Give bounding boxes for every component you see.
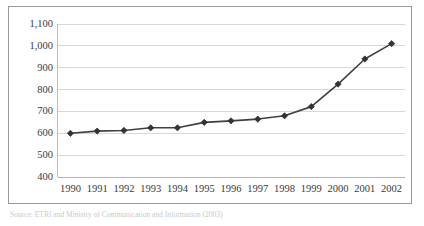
- x-tick-label: 1992: [113, 183, 134, 195]
- data-point-marker: [148, 125, 154, 131]
- y-tick-label: 1,100: [13, 19, 53, 29]
- data-point-marker: [228, 118, 234, 124]
- line-series-svg: [57, 24, 405, 177]
- y-tick-label: 800: [13, 85, 53, 95]
- data-point-marker: [67, 130, 73, 136]
- chart-source-caption: Source: ETRI and Ministry of Communicati…: [10, 210, 414, 219]
- x-tick-label: 1990: [60, 183, 81, 195]
- chart-frame: 4005006007008009001,0001,100 19901991199…: [8, 6, 412, 204]
- data-point-marker: [174, 125, 180, 131]
- x-tick-label: 1997: [247, 183, 268, 195]
- x-axis: 1990199119921993199419951996199719981999…: [57, 183, 405, 199]
- x-tick-label: 1999: [301, 183, 322, 195]
- x-tick-label: 1998: [274, 183, 295, 195]
- data-point-marker: [389, 41, 395, 47]
- data-series-layer: [57, 24, 405, 177]
- y-tick-label: 1,000: [13, 41, 53, 51]
- y-axis: 4005006007008009001,0001,100: [9, 24, 53, 177]
- x-tick-label: 1994: [167, 183, 188, 195]
- data-point-marker: [94, 128, 100, 134]
- data-point-marker: [281, 113, 287, 119]
- y-tick-label: 500: [13, 150, 53, 160]
- data-point-marker: [121, 127, 127, 133]
- x-tick-label: 2001: [354, 183, 375, 195]
- y-tick-label: 700: [13, 106, 53, 116]
- x-tick-label: 1991: [87, 183, 108, 195]
- data-point-marker: [255, 116, 261, 122]
- y-tick-label: 400: [13, 172, 53, 182]
- y-tick-label: 900: [13, 63, 53, 73]
- figure-container: 4005006007008009001,0001,100 19901991199…: [0, 0, 424, 226]
- x-tick-label: 1995: [194, 183, 215, 195]
- y-tick-label: 600: [13, 128, 53, 138]
- data-point-marker: [201, 119, 207, 125]
- x-tick-label: 1996: [221, 183, 242, 195]
- x-tick-label: 2000: [328, 183, 349, 195]
- x-tick-label: 2002: [381, 183, 402, 195]
- x-tick-label: 1993: [140, 183, 161, 195]
